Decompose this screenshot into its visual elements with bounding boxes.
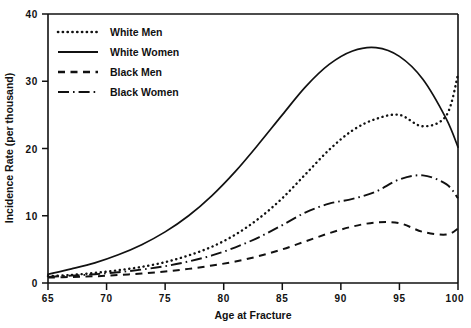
incidence-rate-line-chart: 0 10 20 30 40 65 70 75 80 85 90 95 100	[0, 0, 471, 328]
x-tick-label-95: 95	[393, 293, 406, 304]
x-tick-label-75: 75	[159, 293, 172, 304]
y-axis-title: Incidence Rate (per thousand)	[3, 73, 15, 224]
x-tick-label-70: 70	[100, 293, 113, 304]
x-tick-label-100: 100	[446, 293, 465, 304]
x-tick-label-90: 90	[335, 293, 348, 304]
legend-label-white-men: White Men	[110, 26, 163, 38]
y-tick-label-0: 0	[32, 278, 38, 289]
legend-label-black-men: Black Men	[110, 66, 162, 78]
chart-figure: 0 10 20 30 40 65 70 75 80 85 90 95 100	[0, 0, 471, 328]
y-tick-label-20: 20	[25, 144, 38, 155]
chart-background	[0, 0, 471, 328]
legend-label-white-women: White Women	[110, 46, 179, 58]
x-axis-title: Age at Fracture	[214, 309, 291, 321]
legend-label-black-women: Black Women	[110, 86, 179, 98]
x-tick-label-80: 80	[217, 293, 230, 304]
y-tick-label-30: 30	[25, 76, 38, 87]
y-tick-label-40: 40	[25, 9, 38, 20]
y-tick-label-10: 10	[25, 211, 38, 222]
x-tick-label-85: 85	[276, 293, 289, 304]
x-tick-label-65: 65	[42, 293, 55, 304]
